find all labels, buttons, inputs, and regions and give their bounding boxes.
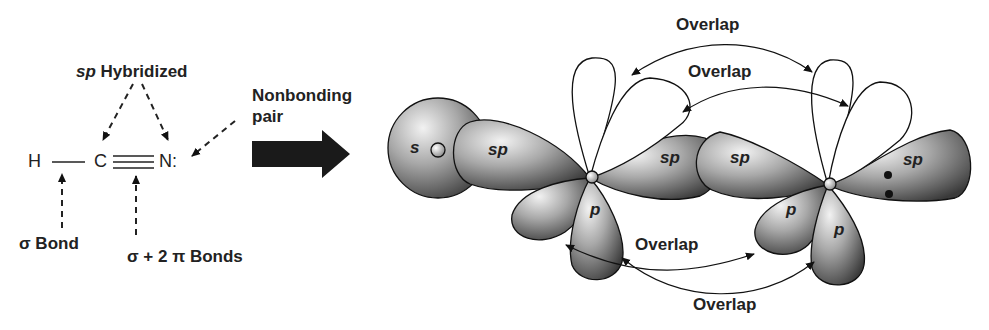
hybrid-arrow-n — [142, 84, 168, 140]
overlap-label-top-outer: Overlap — [676, 15, 739, 35]
nonbonding-line2: pair — [252, 106, 352, 127]
sp-label-n-right: sp — [903, 150, 923, 170]
atom-h: H — [28, 151, 41, 172]
p-label-c: p — [590, 200, 600, 220]
hybridized-label: sp Hybridized — [76, 62, 187, 82]
overlap-label-bottom-inner: Overlap — [635, 235, 698, 255]
sigma-bond-label: σ Bond — [19, 234, 79, 254]
diagram-canvas — [0, 0, 989, 330]
atom-n: N: — [159, 151, 177, 172]
triple-bond-lines — [113, 156, 154, 168]
sp-label-c-right: sp — [660, 148, 680, 168]
nonbonding-label: Nonbondingpair — [252, 85, 352, 127]
overlap-arrow-bottom-outer — [622, 258, 814, 294]
p-label-n-left: p — [786, 200, 796, 220]
overlap-label-bottom-outer: Overlap — [693, 295, 756, 315]
lone-pair-dot — [885, 190, 893, 198]
s-label: s — [410, 138, 419, 158]
nonbonding-line1: Nonbonding — [252, 85, 352, 106]
hybrid-arrow-c — [103, 84, 133, 140]
right-arrow-icon — [252, 130, 350, 178]
c-nucleus — [586, 171, 598, 183]
sp-orbital-c-left — [454, 120, 591, 190]
h-nucleus — [431, 143, 445, 157]
hybrid-prefix: sp — [76, 62, 96, 81]
hybrid-suffix: Hybridized — [96, 62, 188, 81]
atom-c: C — [94, 151, 107, 172]
n-nucleus — [824, 178, 836, 190]
sp-label-n-left: sp — [730, 148, 750, 168]
lone-pair-dot — [884, 171, 892, 179]
sp-orbital-n-left — [696, 132, 828, 198]
nonbonding-arrow — [192, 121, 235, 156]
p-label-n-lower: p — [834, 220, 844, 240]
triple-bond-label: σ + 2 π Bonds — [127, 247, 243, 267]
sp-label-c-left: sp — [488, 140, 508, 160]
overlap-label-top-inner: Overlap — [688, 62, 751, 82]
